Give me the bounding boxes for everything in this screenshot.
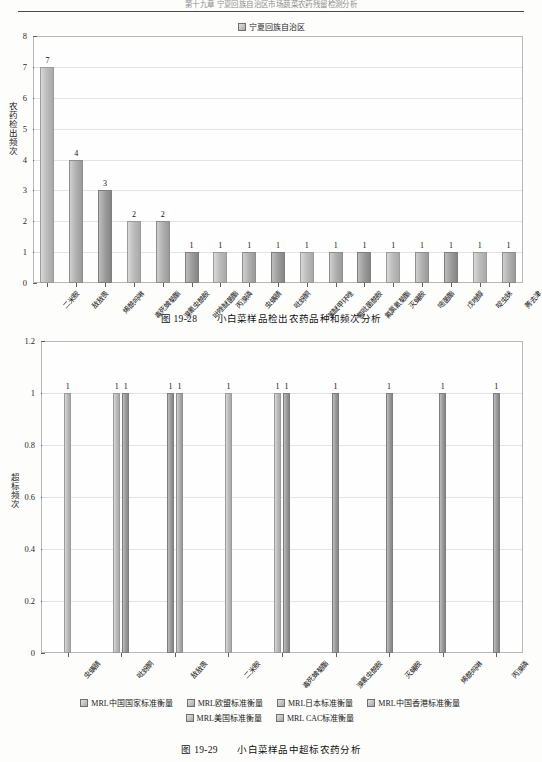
figure2-bar-g4-s1	[283, 393, 290, 653]
figure1-x-tickmark-12	[393, 283, 394, 287]
figure2-y-tick-3: 0.6	[0, 492, 35, 502]
figure2-legend-label: MRL日本标准衡量	[288, 697, 353, 708]
legend-swatch-icon	[187, 699, 195, 707]
figure1-gridline-4	[34, 160, 522, 161]
figure1-bar-value-13: 1	[420, 241, 424, 250]
figure1-bar-13	[415, 252, 429, 283]
figure1-bar-value-8: 1	[276, 241, 280, 250]
figure1-bar-11	[357, 252, 371, 283]
figure1-gridline-7	[34, 67, 522, 68]
figure2-legend-label: MRL欧盟标准衡量	[198, 697, 263, 708]
figure2-bar-g7-s1	[439, 393, 446, 653]
figure2-legend: MRL中国国家标准衡量MRL欧盟标准衡量MRL日本标准衡量MRL中国香港标准衡量…	[60, 697, 480, 723]
figure2-x-tickmark-4	[282, 653, 283, 657]
figure1-bar-7	[242, 252, 256, 283]
figure2-x-label-5: 溴氰虫酰胺	[353, 658, 384, 691]
figure1-legend: 宁夏回族自治区	[0, 21, 542, 32]
figure1-bar-value-6: 1	[218, 241, 222, 250]
figure2-y-tick-5: 1	[0, 388, 35, 398]
figure2-x-label-7: 烯酰吗啉	[458, 658, 484, 685]
figure2-caption: 图 19-29 小白菜样品中超标农药分析	[0, 742, 542, 756]
figure1-y-tick-6: 6	[0, 93, 27, 103]
figure2-bar-g2-s1	[167, 393, 174, 653]
figure1-y-tickmark-0	[33, 283, 37, 284]
figure2-legend-label: MRL中国香港标准衡量	[378, 697, 459, 708]
figure1-x-tickmark-3	[134, 283, 135, 287]
running-header-text: 第十九章 宁夏回族自治区市场蔬菜农药残留检测分析	[0, 0, 542, 9]
figure1-bar-value-0: 7	[45, 56, 49, 65]
legend-swatch-icon	[186, 714, 194, 722]
figure1-gridline-5	[34, 129, 522, 130]
figure2-caption-text: 小白菜样品中超标农药分析	[237, 745, 361, 755]
figure2-caption-number: 图 19-29	[181, 745, 218, 755]
figure1-bar-value-14: 1	[449, 241, 453, 250]
figure2-x-tickmark-3	[228, 653, 229, 657]
figure2-x-tickmark-1	[121, 653, 122, 657]
figure1-x-tickmark-5	[192, 283, 193, 287]
figure1-y-tick-2: 2	[0, 216, 27, 226]
legend-swatch-icon	[367, 699, 375, 707]
figure1-x-tickmark-0	[47, 283, 48, 287]
figure1-y-tick-1: 1	[0, 247, 27, 257]
figure2-bar-value-g5-s1: 1	[334, 382, 338, 391]
figure1-x-tickmark-15	[480, 283, 481, 287]
figure1-x-tickmark-14	[451, 283, 452, 287]
figure2-legend-item-5: MRL CAC标准衡量	[276, 712, 355, 723]
figure2-y-tick-6: 1.2	[0, 336, 35, 346]
figure2-legend-label: MRL中国国家标准衡量	[91, 697, 172, 708]
figure1-bar-value-4: 2	[161, 210, 165, 219]
figure1-x-label-14: 戊唑醇	[464, 288, 485, 310]
figure2-bar-g1-s0	[113, 393, 120, 653]
figure1-x-label-1: 敌敌畏	[89, 288, 110, 310]
figure1-bar-value-9: 1	[305, 241, 309, 250]
figure1-y-tick-4: 4	[0, 155, 27, 165]
figure2-x-label-0: 虫螨腈	[81, 658, 102, 680]
figure1-x-tickmark-1	[76, 283, 77, 287]
figure2-bar-value-g3-s0: 1	[226, 382, 230, 391]
figure2-x-tickmark-2	[175, 653, 176, 657]
figure1-bar-1	[69, 160, 83, 284]
figure2-y-tickmark-6	[41, 341, 45, 342]
figure1-y-tick-3: 3	[0, 185, 27, 195]
figure2-y-axis-label: 超标频次	[8, 473, 20, 509]
legend-swatch-icon	[277, 699, 285, 707]
figure2-y-tick-2: 0.4	[0, 544, 35, 554]
figure2-bar-g2-s2	[176, 393, 183, 653]
figure1-bar-9	[300, 252, 314, 283]
figure2-bar-g3-s0	[225, 393, 232, 653]
figure2-bar-value-g4-s0: 1	[276, 382, 280, 391]
figure2-bar-value-g2-s1: 1	[168, 382, 172, 391]
figure2-x-label-2: 敌敌畏	[188, 658, 209, 680]
figure2-bar-value-g2-s2: 1	[177, 382, 181, 391]
figure2-x-label-3: 二米胺	[241, 658, 262, 680]
figure1-bar-10	[329, 252, 343, 283]
figure1-x-tickmark-11	[364, 283, 365, 287]
figure1-bar-12	[386, 252, 400, 283]
figure1-bar-value-15: 1	[478, 241, 482, 250]
figure2-x-tickmark-6	[389, 653, 390, 657]
figure1-bar-value-10: 1	[334, 241, 338, 250]
figure2-bar-g1-s1	[122, 393, 129, 653]
figure1-bar-value-5: 1	[190, 241, 194, 250]
figure1-x-tickmark-2	[105, 283, 106, 287]
document-page: 第十九章 宁夏回族自治区市场蔬菜农药残留检测分析 宁夏回族自治区 农药检出频次 …	[0, 0, 542, 762]
figure2-bar-g6-s1	[386, 393, 393, 653]
legend-swatch-icon	[80, 699, 88, 707]
figure2-bar-g8-s1	[493, 393, 500, 653]
figure1-x-tickmark-8	[278, 283, 279, 287]
figure2-bar-value-g1-s1: 1	[124, 382, 128, 391]
figure2-legend-item-1: MRL欧盟标准衡量	[187, 697, 263, 708]
figure2-x-tickmark-7	[443, 653, 444, 657]
figure1-y-tick-7: 7	[0, 62, 27, 72]
figure1-bar-value-2: 3	[103, 179, 107, 188]
figure1-y-tick-0: 0	[0, 278, 27, 288]
figure2-x-tickmark-8	[496, 653, 497, 657]
figure1-bar-value-7: 1	[247, 241, 251, 250]
figure2-bar-value-g1-s0: 1	[115, 382, 119, 391]
figure1-x-label-13: 嘧菌酯	[435, 288, 456, 310]
figure1-bar-5	[185, 252, 199, 283]
figure2-legend-label: MRL美国标准衡量	[197, 712, 262, 723]
figure1-x-tickmark-6	[220, 283, 221, 287]
figure1-bar-3	[127, 221, 141, 283]
figure2-bar-value-g4-s1: 1	[285, 382, 289, 391]
